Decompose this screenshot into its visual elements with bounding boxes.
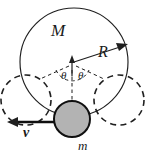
label-angle-right: θ: [78, 69, 84, 81]
ring-position-left-circle: [1, 75, 51, 125]
label-small-mass: m: [78, 138, 87, 153]
label-velocity: v: [23, 125, 30, 140]
label-angle-left: θ: [61, 69, 67, 81]
label-big-mass: M: [50, 21, 66, 40]
small-ball-circle: [54, 101, 90, 137]
radius-vector-line: [74, 47, 120, 62]
diagram-canvas: M R θ θ v m: [0, 0, 145, 157]
ring-position-right-circle: [94, 75, 144, 125]
label-radius: R: [97, 43, 108, 60]
physics-figure: M R θ θ v m: [0, 0, 145, 157]
